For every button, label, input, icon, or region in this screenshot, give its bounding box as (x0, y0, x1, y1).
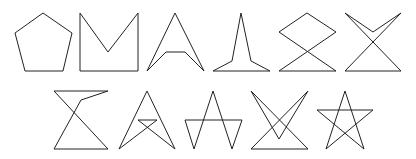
z-hourglass-shape (54, 91, 108, 149)
spike-shape (213, 13, 270, 71)
diamond-hourglass-shape (279, 13, 336, 71)
row-1 (15, 13, 401, 71)
pentagon-shape (15, 13, 72, 71)
pentagram-shape (317, 91, 373, 149)
a-crossed-shape (119, 91, 175, 149)
x-bowtie-shape (345, 13, 401, 71)
row-2 (54, 91, 373, 149)
notched-square-shape (80, 13, 138, 71)
a-bar-legs-shape (185, 91, 242, 149)
shapes-diagram (0, 0, 416, 159)
double-v-shape (251, 91, 308, 149)
shape-figure (0, 0, 416, 159)
arrowhead-shape (147, 13, 204, 71)
